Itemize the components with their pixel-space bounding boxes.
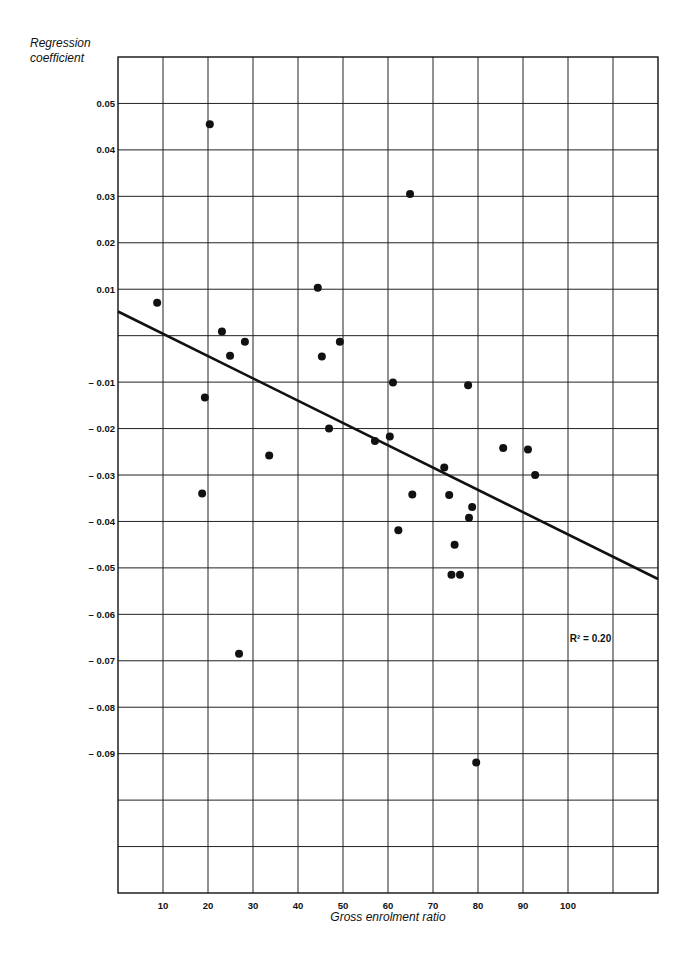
- y-tick-label: 0.04: [97, 144, 116, 155]
- data-point: [445, 491, 453, 499]
- data-point: [408, 491, 416, 499]
- y-tick-label: – 0.09: [89, 748, 115, 759]
- data-point: [464, 381, 472, 389]
- grid: [118, 57, 658, 893]
- data-point: [472, 758, 480, 766]
- y-tick-label: – 0.06: [89, 609, 115, 620]
- data-point: [198, 490, 206, 498]
- data-point: [406, 190, 414, 198]
- data-points: [153, 120, 539, 766]
- y-tick-label: – 0.02: [89, 423, 115, 434]
- data-point: [499, 444, 507, 452]
- data-point: [218, 327, 226, 335]
- data-point: [394, 526, 402, 534]
- y-tick-label: – 0.03: [89, 470, 115, 481]
- scatter-chart: 1020304050607080901000.050.040.030.020.0…: [0, 0, 692, 955]
- data-point: [386, 432, 394, 440]
- data-point: [371, 437, 379, 445]
- y-tick-label: 0.03: [97, 191, 116, 202]
- data-point: [265, 451, 273, 459]
- data-point: [235, 650, 243, 658]
- r-squared-label: R² = 0.20: [570, 633, 612, 644]
- y-tick-label: – 0.07: [89, 655, 115, 666]
- data-point: [241, 338, 249, 346]
- data-point: [524, 445, 532, 453]
- data-point: [314, 284, 322, 292]
- data-point: [201, 393, 209, 401]
- y-tick-label: – 0.01: [89, 377, 116, 388]
- data-point: [531, 471, 539, 479]
- y-tick-label: 0.02: [97, 237, 116, 248]
- annotations: R² = 0.20: [570, 633, 612, 644]
- y-tick-label: 0.05: [97, 98, 116, 109]
- data-point: [153, 299, 161, 307]
- data-point: [389, 379, 397, 387]
- data-point: [336, 338, 344, 346]
- data-point: [447, 571, 455, 579]
- data-point: [440, 464, 448, 472]
- y-tick-label: – 0.08: [89, 702, 115, 713]
- data-point: [456, 571, 464, 579]
- data-point: [468, 503, 476, 511]
- y-tick-label: 0.01: [97, 284, 116, 295]
- data-point: [206, 120, 214, 128]
- x-axis-title: Gross enrolment ratio: [0, 910, 692, 924]
- data-point: [226, 352, 234, 360]
- axis-ticks: 1020304050607080901000.050.040.030.020.0…: [89, 98, 576, 911]
- data-point: [325, 425, 333, 433]
- data-point: [318, 353, 326, 361]
- data-point: [465, 514, 473, 522]
- y-tick-label: – 0.04: [89, 516, 116, 527]
- data-point: [451, 541, 459, 549]
- y-tick-label: – 0.05: [89, 562, 116, 573]
